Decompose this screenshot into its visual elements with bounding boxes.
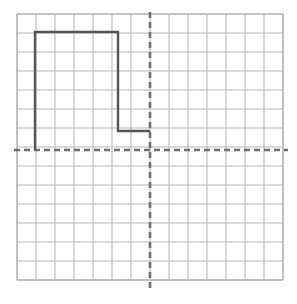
figure-background: [0, 0, 297, 304]
coordinate-grid-figure: [0, 0, 297, 304]
screenshot-root: [0, 0, 297, 304]
